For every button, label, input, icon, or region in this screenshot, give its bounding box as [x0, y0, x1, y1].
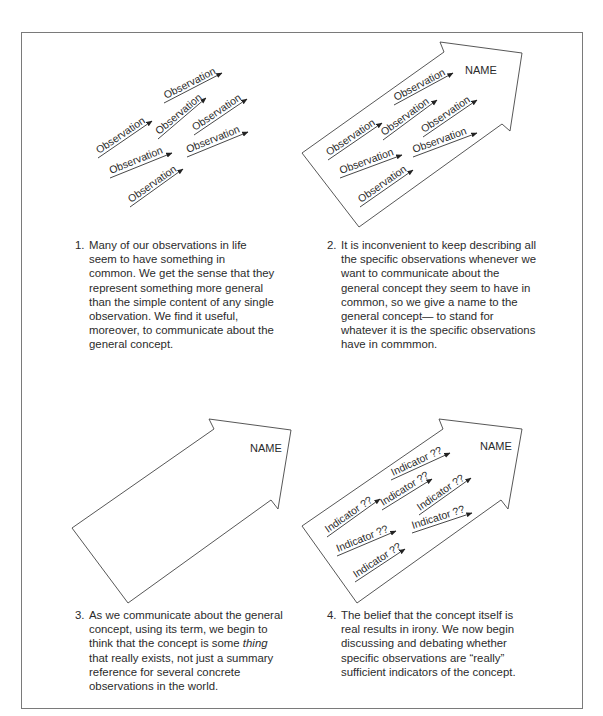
caption-number: 4. — [327, 608, 337, 622]
caption-text: Many of our observations in life seem to… — [89, 238, 275, 352]
caption-text: The belief that the concept itself is re… — [341, 608, 527, 679]
caption-number: 2. — [327, 238, 337, 252]
observation-arrow: Observation — [125, 162, 183, 207]
caption-2: 2. It is inconvenient to keep describing… — [327, 238, 539, 352]
name-label: NAME — [250, 442, 282, 454]
panel-2-named-arrow: NAME Observation Observation Observation… — [302, 42, 522, 227]
name-label: NAME — [480, 440, 512, 452]
caption-3: 3. As we communicate about the general c… — [75, 608, 285, 693]
emphasis-thing: thing — [243, 637, 268, 649]
caption-4: 4. The belief that the concept itself is… — [327, 608, 527, 679]
caption-text: It is inconvenient to keep describing al… — [341, 238, 539, 352]
svg-text:Observation: Observation — [93, 114, 147, 156]
panel-4-indicator-arrow: NAME Indicator ?? Indicator ?? Indicator… — [302, 419, 522, 603]
name-label: NAME — [465, 64, 497, 76]
panel-3-empty-arrow: NAME — [72, 419, 291, 603]
caption-1: 1. Many of our observations in life seem… — [75, 238, 275, 352]
panel-1-observations: Observation Observation Observation Obse… — [93, 64, 248, 207]
caption-number: 1. — [75, 238, 85, 252]
caption-number: 3. — [75, 608, 85, 622]
caption-text: As we communicate about the general conc… — [89, 608, 285, 693]
